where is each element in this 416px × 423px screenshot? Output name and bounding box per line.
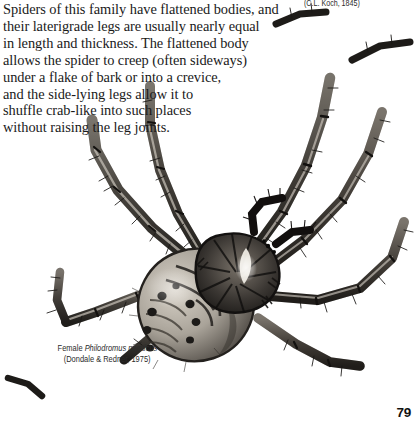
figure-caption-species: Philodromus mysticus (85, 343, 158, 353)
figure-caption-line-1: Female Philodromus mysticus (35, 343, 157, 354)
body-text-line: in length and thickness. The flattened b… (3, 35, 271, 52)
page-number: 79 (397, 405, 411, 420)
caption-authority-citation: (C.L. Koch, 1845) (304, 0, 360, 9)
body-text-line: and the side-lying legs allow it to (3, 86, 271, 103)
body-text-line: shuffle crab-like into such places (3, 102, 271, 119)
body-text-line: under a flake of bark or into a crevice, (3, 69, 271, 86)
body-text-line: allows the spider to creep (often sidewa… (3, 52, 271, 69)
leg-tip-upper-right (352, 35, 410, 60)
body-text-line: their laterigrade legs are usually nearl… (3, 18, 271, 35)
figure-caption-prefix: Female (58, 343, 85, 353)
body-text-line: Spiders of this family have flattened bo… (3, 1, 271, 18)
figure-caption: Female Philodromus mysticus (Dondale & R… (35, 343, 157, 366)
figure-caption-line-2: (Dondale & Redner, 1975) (35, 354, 157, 365)
leg-second-right (262, 112, 390, 272)
leg-fourth-right (258, 318, 360, 376)
body-text-block: Spiders of this family have flattened bo… (3, 1, 271, 136)
book-page: Spiders of this family have flattened bo… (0, 0, 416, 423)
leg-tip-lower-left (8, 378, 42, 396)
leg-second-left (89, 120, 200, 268)
body-text-line: without raising the leg joints. (3, 119, 271, 136)
spider-carapace (196, 234, 280, 313)
